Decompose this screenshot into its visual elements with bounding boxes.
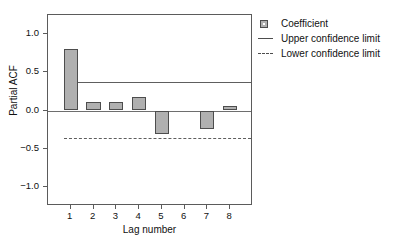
y-tick-label: −0.5 bbox=[5, 142, 39, 153]
x-tick-mark bbox=[206, 205, 207, 209]
legend-item-coefficient: Coefficient bbox=[258, 17, 403, 30]
legend-label: Lower confidence limit bbox=[281, 48, 380, 59]
lower-confidence-line bbox=[64, 138, 251, 139]
x-tick-label: 6 bbox=[174, 210, 194, 221]
y-tick-label: 0.0 bbox=[5, 104, 39, 115]
legend-item-upper-confidence-limit: Upper confidence limit bbox=[258, 32, 403, 45]
bar-lag-1 bbox=[64, 49, 78, 110]
x-tick-label: 5 bbox=[151, 210, 171, 221]
x-tick-mark bbox=[161, 205, 162, 209]
x-tick-label: 1 bbox=[60, 210, 80, 221]
zero-baseline bbox=[48, 111, 251, 112]
y-axis-title: Partial ACF bbox=[8, 31, 19, 151]
solid-line-swatch-icon bbox=[258, 33, 276, 44]
x-tick-mark bbox=[229, 205, 230, 209]
bar-lag-2 bbox=[86, 102, 100, 110]
x-tick-label: 4 bbox=[128, 210, 148, 221]
x-tick-mark bbox=[93, 205, 94, 209]
y-tick-label: 1.0 bbox=[5, 27, 39, 38]
legend-label: Upper confidence limit bbox=[281, 33, 380, 44]
chart-legend: Coefficient Upper confidence limit Lower… bbox=[258, 17, 403, 62]
bar-lag-3 bbox=[109, 102, 123, 110]
bar-lag-4 bbox=[132, 97, 146, 111]
plot-inner bbox=[48, 15, 251, 204]
x-tick-label: 7 bbox=[196, 210, 216, 221]
x-tick-mark bbox=[138, 205, 139, 209]
plot-area bbox=[47, 14, 252, 205]
x-tick-label: 8 bbox=[219, 210, 239, 221]
chart-title bbox=[60, 0, 270, 2]
bar-lag-5 bbox=[155, 111, 169, 135]
filled-square-swatch-icon bbox=[258, 18, 276, 29]
x-tick-label: 2 bbox=[83, 210, 103, 221]
x-tick-mark bbox=[184, 205, 185, 209]
bar-lag-8 bbox=[223, 106, 237, 111]
bar-lag-7 bbox=[200, 111, 214, 129]
y-tick-label: 0.5 bbox=[5, 65, 39, 76]
x-tick-mark bbox=[70, 205, 71, 209]
dashed-line-swatch-icon bbox=[258, 48, 276, 59]
legend-item-lower-confidence-limit: Lower confidence limit bbox=[258, 47, 403, 60]
legend-label: Coefficient bbox=[281, 18, 328, 29]
x-tick-label: 3 bbox=[105, 210, 125, 221]
x-axis-title: Lag number bbox=[47, 224, 252, 235]
upper-confidence-line bbox=[64, 82, 251, 83]
y-tick-label: −1.0 bbox=[5, 180, 39, 191]
pacf-chart: Partial ACF 1.00.50.0−0.5−1.0 12345678 L… bbox=[0, 0, 403, 245]
x-tick-mark bbox=[115, 205, 116, 209]
